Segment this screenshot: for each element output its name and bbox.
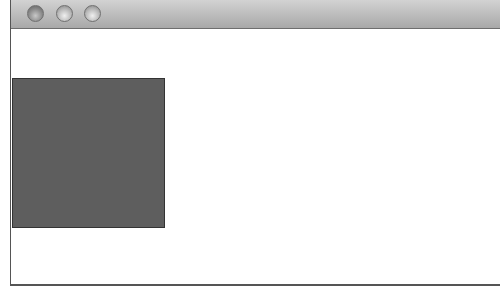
app-window (10, 0, 500, 286)
zoom-button-icon[interactable] (84, 5, 101, 22)
minimize-button-icon[interactable] (56, 5, 73, 22)
title-bar[interactable] (11, 0, 500, 29)
gray-square-view (12, 78, 165, 228)
close-button-icon[interactable] (27, 5, 44, 22)
window-content (11, 29, 500, 284)
